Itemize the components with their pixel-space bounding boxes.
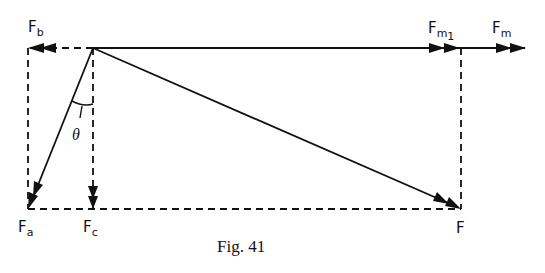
label-f: F xyxy=(456,219,465,237)
label-fc: Fc xyxy=(83,218,98,239)
fa-vector-line xyxy=(30,48,93,205)
label-fb: Fb xyxy=(28,18,44,39)
label-fm1: Fm1 xyxy=(428,19,454,43)
fm1-arrowhead xyxy=(429,43,460,53)
fm-arrowhead xyxy=(496,43,526,53)
theta-angle-arc xyxy=(72,101,93,105)
theta-leader xyxy=(80,106,82,118)
f-resultant-line xyxy=(93,48,455,206)
figure-41-diagram: Fb Fm1 Fm Fa Fc F θ Fig. 41 xyxy=(0,0,545,273)
force-diagram: Fb Fm1 Fm Fa Fc F θ Fig. 41 xyxy=(0,0,545,273)
f-arrowhead xyxy=(433,192,461,209)
label-fa: Fa xyxy=(18,218,33,239)
dashed-construction-lines xyxy=(28,48,461,209)
fb-arrowhead xyxy=(28,43,56,53)
label-fm: Fm xyxy=(492,19,511,40)
figure-caption: Fig. 41 xyxy=(217,237,265,256)
fc-arrowhead xyxy=(88,186,98,209)
label-theta: θ xyxy=(72,126,80,143)
fa-arrowhead xyxy=(28,181,43,209)
